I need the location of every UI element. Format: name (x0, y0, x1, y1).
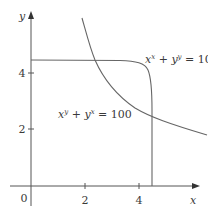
curve-label-xy-plus-yx-100: xy + yx = 100 (58, 108, 132, 121)
ticks (28, 73, 139, 189)
y-axis-label: y (18, 10, 26, 23)
x-tick-label-4: 4 (136, 194, 143, 207)
x-axis-label: x (190, 194, 197, 207)
y-tick-label-4: 4 (19, 67, 26, 80)
chart: 2 4 4 2 0 x y xx + yy = 1000 xy + yx = 1… (0, 0, 208, 216)
y-tick-label-2: 2 (19, 123, 26, 136)
x-tick-label-2: 2 (82, 194, 89, 207)
origin-label: 0 (21, 192, 28, 205)
curve-xx-plus-yy-1000 (31, 60, 152, 186)
x-axis-arrow-icon (192, 183, 200, 189)
curve-label-xx-plus-yy-1000: xx + yy = 1000 (145, 53, 208, 66)
y-axis-arrow-icon (28, 11, 34, 19)
